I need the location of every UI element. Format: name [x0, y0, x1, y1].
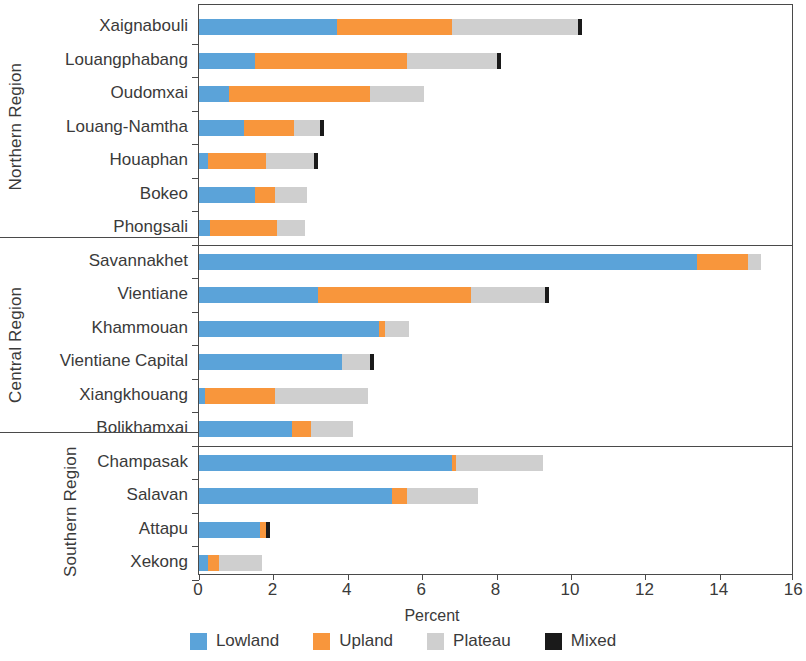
- category-label-louang-namtha: Louang-Namtha: [66, 118, 188, 135]
- square-swatch-icon: [545, 633, 562, 650]
- region-label-central-region: Central Region: [6, 244, 26, 445]
- bar-segment-lowland: [199, 287, 318, 303]
- y-axis-tick: [192, 178, 199, 179]
- x-axis-tick-label: 2: [252, 580, 292, 600]
- bar-segment-plateau: [370, 86, 424, 102]
- category-label-houaphan: Houaphan: [110, 151, 188, 168]
- bar-segment-plateau: [452, 19, 578, 35]
- bar-segment-plateau: [275, 388, 368, 404]
- bar-segment-upland: [208, 555, 219, 571]
- category-label-oudomxai: Oudomxai: [111, 84, 188, 101]
- bar-segment-plateau: [456, 455, 543, 471]
- y-axis-tick: [192, 77, 199, 78]
- chart-legend: LowlandUplandPlateauMixed: [0, 631, 806, 651]
- bar-xiangkhouang: [199, 388, 794, 404]
- category-label-xekong: Xekong: [130, 553, 188, 570]
- legend-item-lowland[interactable]: Lowland: [190, 631, 279, 651]
- y-axis-tick: [192, 278, 199, 279]
- bar-segment-mixed: [370, 354, 374, 370]
- y-axis-tick: [192, 245, 199, 246]
- legend-item-mixed[interactable]: Mixed: [545, 631, 616, 651]
- y-axis-tick: [192, 379, 199, 380]
- bar-champasak: [199, 455, 794, 471]
- x-axis-tick-label: 4: [327, 580, 367, 600]
- legend-label: Lowland: [216, 631, 279, 651]
- bar-segment-lowland: [199, 522, 260, 538]
- x-axis-title-text: Percent: [404, 607, 459, 624]
- legend-item-upland[interactable]: Upland: [313, 631, 393, 651]
- bar-segment-plateau: [748, 254, 761, 270]
- bar-segment-plateau: [219, 555, 262, 571]
- bar-segment-lowland: [199, 53, 255, 69]
- bar-segment-upland: [205, 388, 276, 404]
- bar-phongsali: [199, 220, 794, 236]
- bar-segment-upland: [244, 120, 294, 136]
- bar-segment-lowland: [199, 354, 342, 370]
- y-axis-tick: [192, 479, 199, 480]
- bar-segment-lowland: [199, 254, 697, 270]
- bar-houaphan: [199, 153, 794, 169]
- bar-segment-plateau: [342, 354, 370, 370]
- bar-segment-mixed: [314, 153, 318, 169]
- bar-bokeo: [199, 187, 794, 203]
- category-label-vientiane-capital: Vientiane Capital: [60, 352, 188, 369]
- category-label-bolikhamxai: Bolikhamxai: [96, 419, 188, 436]
- bar-segment-upland: [697, 254, 747, 270]
- bar-segment-mixed: [497, 53, 501, 69]
- bar-louang-namtha: [199, 120, 794, 136]
- region-separator-line: [199, 446, 792, 447]
- bar-segment-upland: [392, 488, 407, 504]
- y-axis-tick: [192, 546, 199, 547]
- bar-bolikhamxai: [199, 421, 794, 437]
- bar-segment-plateau: [385, 321, 409, 337]
- square-swatch-icon: [313, 633, 330, 650]
- bar-xekong: [199, 555, 794, 571]
- legend-label: Mixed: [571, 631, 616, 651]
- bar-segment-lowland: [199, 220, 210, 236]
- category-label-bokeo: Bokeo: [140, 185, 188, 202]
- y-axis-tick: [192, 446, 199, 447]
- region-separator-line: [0, 237, 198, 238]
- bar-savannakhet: [199, 254, 794, 270]
- bar-segment-lowland: [199, 19, 337, 35]
- legend-label: Plateau: [453, 631, 511, 651]
- y-axis-tick: [192, 312, 199, 313]
- y-axis-tick: [192, 111, 199, 112]
- y-axis-tick: [192, 211, 199, 212]
- bar-segment-mixed: [578, 19, 582, 35]
- category-label-louangphabang: Louangphabang: [65, 51, 188, 68]
- region-separator-line: [0, 432, 198, 433]
- bar-segment-lowland: [199, 120, 244, 136]
- y-axis-tick: [192, 412, 199, 413]
- bar-segment-upland: [255, 187, 275, 203]
- y-axis-tick: [192, 144, 199, 145]
- plot-area: [198, 4, 793, 575]
- x-axis-tick-label: 12: [624, 580, 664, 600]
- bar-segment-upland: [210, 220, 277, 236]
- bar-segment-plateau: [407, 53, 496, 69]
- bar-segment-upland: [229, 86, 370, 102]
- bar-segment-plateau: [407, 488, 478, 504]
- bar-segment-upland: [292, 421, 311, 437]
- bar-vientiane: [199, 287, 794, 303]
- x-axis-tick-label: 10: [550, 580, 590, 600]
- x-axis-tick-label: 14: [699, 580, 739, 600]
- bar-khammouan: [199, 321, 794, 337]
- region-separator-line: [199, 245, 792, 246]
- bar-segment-plateau: [294, 120, 320, 136]
- bar-segment-plateau: [275, 187, 307, 203]
- bar-segment-lowland: [199, 153, 208, 169]
- bar-segment-lowland: [199, 421, 292, 437]
- category-label-xiangkhouang: Xiangkhouang: [79, 386, 188, 403]
- bar-segment-mixed: [545, 287, 549, 303]
- bar-segment-plateau: [471, 287, 545, 303]
- bar-segment-plateau: [266, 153, 314, 169]
- region-label-northern-region: Northern Region: [6, 9, 26, 244]
- legend-label: Upland: [339, 631, 393, 651]
- bar-segment-mixed: [320, 120, 324, 136]
- legend-item-plateau[interactable]: Plateau: [427, 631, 511, 651]
- category-label-savannakhet: Savannakhet: [89, 252, 188, 269]
- bar-segment-plateau: [277, 220, 305, 236]
- bar-salavan: [199, 488, 794, 504]
- bar-segment-lowland: [199, 555, 208, 571]
